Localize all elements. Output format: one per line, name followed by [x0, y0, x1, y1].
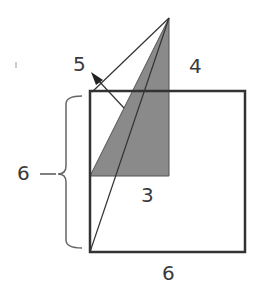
label-square-side-left: 6	[17, 163, 30, 183]
label-square-side-bottom: 6	[162, 263, 175, 283]
geometry-diagram	[0, 0, 256, 293]
arrow-line	[97, 79, 124, 108]
label-triangle-base: 3	[141, 185, 154, 205]
label-hypotenuse: 5	[73, 54, 86, 74]
brace	[58, 96, 82, 248]
label-triangle-height: 4	[189, 56, 202, 76]
shaded-right-triangle	[90, 18, 169, 176]
